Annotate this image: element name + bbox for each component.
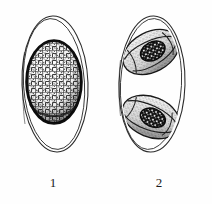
figure-label-1: 1 [0, 176, 106, 190]
figure-panel-2: 2 [106, 0, 212, 204]
sporocyst-upper-figure-2 [115, 20, 187, 83]
figure-1-drawing [0, 8, 106, 176]
figure-panel-1: 1 [0, 0, 106, 204]
illustration-plate: 1 [0, 0, 212, 204]
sporont-figure-1 [26, 40, 82, 124]
sporocyst-lower-figure-2 [116, 87, 187, 147]
figure-label-2: 2 [106, 176, 212, 190]
figure-2-drawing [106, 8, 212, 176]
